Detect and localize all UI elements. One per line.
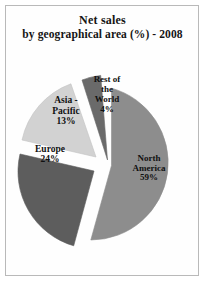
chart-title: Net sales by geographical area (%) - 200…	[0, 13, 205, 42]
pie-label-europe-line-1: Europe	[22, 144, 78, 154]
pie-label-asia-pacific-line-2: Pacific	[42, 106, 90, 117]
pie-chart-plot-area: North America 59% Europe 24% Asia - Paci…	[8, 48, 197, 274]
pie-chart-figure: Net sales by geographical area (%) - 200…	[0, 0, 205, 282]
pie-label-rest-of-world: Rest of the World 4%	[86, 75, 128, 115]
chart-title-line-2: by geographical area (%) - 2008	[0, 28, 205, 42]
pie-label-north-america: North America 59%	[120, 154, 178, 183]
pie-label-rest-of-world-value: 4%	[86, 105, 128, 115]
pie-label-asia-pacific-line-1: Asia -	[42, 95, 90, 106]
pie-label-asia-pacific: Asia - Pacific 13%	[42, 95, 90, 127]
pie-label-asia-pacific-value: 13%	[42, 116, 90, 127]
pie-label-north-america-value: 59%	[120, 173, 178, 183]
pie-label-europe-value: 24%	[22, 154, 78, 164]
pie-slice-europe[interactable]	[18, 154, 94, 246]
chart-title-line-1: Net sales	[0, 13, 205, 27]
pie-label-europe: Europe 24%	[22, 144, 78, 165]
